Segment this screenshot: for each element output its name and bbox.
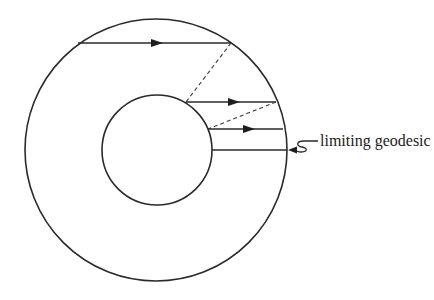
- dashed-link-2: [208, 102, 276, 129]
- inner-circle: [102, 95, 212, 205]
- limiting-geodesic-label: limiting geodesic: [320, 132, 431, 150]
- geodesic-1: [78, 39, 231, 47]
- arrow-right-icon: [228, 98, 240, 106]
- geodesic-3: [208, 125, 283, 133]
- annulus-diagram: limiting geodesic: [0, 0, 434, 300]
- dashed-link-1: [186, 43, 231, 102]
- arrow-left-icon: [288, 147, 297, 154]
- geodesic-2: [186, 98, 276, 106]
- label-leader: [288, 141, 318, 154]
- arrow-right-icon: [243, 125, 255, 133]
- arrow-right-icon: [151, 39, 163, 47]
